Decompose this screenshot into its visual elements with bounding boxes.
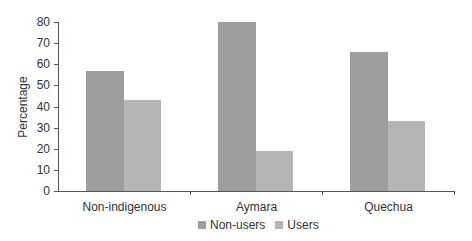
legend-item: Users	[275, 218, 318, 232]
x-tick-mark	[322, 191, 323, 195]
bar-non-users-aymara	[218, 22, 256, 191]
legend-label: Users	[287, 218, 318, 232]
legend-swatch-icon	[275, 221, 283, 229]
bar-non-users-quechua	[350, 52, 388, 191]
x-category-label: Quechua	[323, 200, 455, 214]
bar-users-quechua	[388, 121, 426, 191]
legend: Non-usersUsers	[198, 218, 329, 232]
x-category-label: Non-indigenous	[59, 200, 191, 214]
legend-swatch-icon	[198, 221, 206, 229]
bar-non-users-non-indigenous	[86, 71, 124, 191]
y-tick-label: 70	[20, 37, 50, 49]
y-tick-label: 0	[20, 185, 50, 197]
x-category-label: Aymara	[191, 200, 323, 214]
y-axis-label: Percentage	[16, 72, 30, 142]
x-tick-mark	[454, 191, 455, 195]
bar-users-aymara	[256, 151, 294, 191]
y-axis-line	[58, 22, 59, 192]
legend-item: Non-users	[198, 218, 265, 232]
y-tick-label: 80	[20, 16, 50, 28]
x-axis-line	[58, 191, 455, 192]
y-tick-label: 10	[20, 164, 50, 176]
x-tick-mark	[190, 191, 191, 195]
y-tick-label: 60	[20, 58, 50, 70]
bar-chart: 01020304050607080 Percentage Non-indigen…	[0, 0, 472, 241]
bar-users-non-indigenous	[124, 100, 162, 191]
y-tick-label: 20	[20, 143, 50, 155]
legend-label: Non-users	[210, 218, 265, 232]
